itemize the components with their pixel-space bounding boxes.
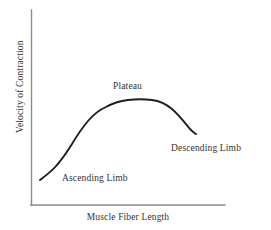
- muscle-length-velocity-chart: Velocity of Contraction Muscle Fiber Len…: [0, 0, 271, 230]
- annotation-ascending-limb: Ascending Limb: [62, 174, 128, 184]
- y-axis-label: Velocity of Contraction: [16, 27, 26, 147]
- chart-canvas: [0, 0, 271, 230]
- contraction-velocity-curve: [40, 99, 196, 180]
- annotation-plateau: Plateau: [113, 82, 142, 92]
- annotation-descending-limb: Descending Limb: [171, 144, 241, 154]
- x-axis-label: Muscle Fiber Length: [31, 213, 225, 223]
